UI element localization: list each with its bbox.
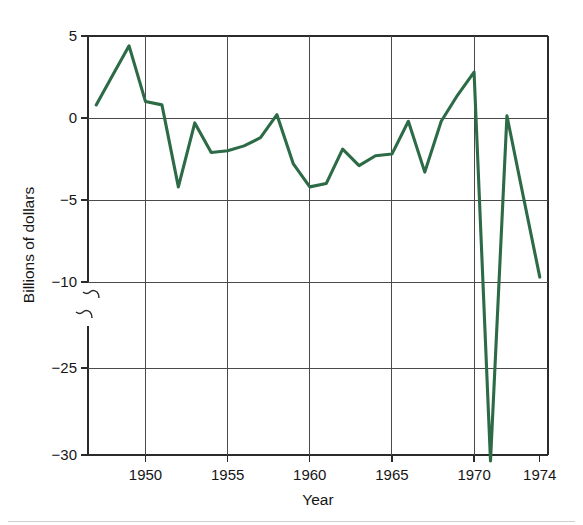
x-tick-label-1955: 1955 [211, 466, 244, 483]
x-tick-label-1950: 1950 [129, 466, 162, 483]
figure-container: 50−5−10−25−30 195019551960196519701974 B… [0, 0, 583, 525]
x-tick-label-1974: 1974 [523, 466, 556, 483]
y-axis-title: Billions of dollars [20, 187, 37, 304]
y-tick-label-neg10: −10 [52, 273, 77, 290]
x-tick-label-1960: 1960 [293, 466, 326, 483]
x-tick-label-1965: 1965 [375, 466, 408, 483]
x-axis-title: Year [302, 491, 333, 508]
y-tick-label-5: 5 [69, 27, 77, 44]
y-tick-label-neg30: −30 [52, 446, 77, 463]
y-tick-label-neg25: −25 [52, 359, 77, 376]
y-tick-label-0: 0 [69, 109, 77, 126]
line-chart: 50−5−10−25−30 195019551960196519701974 B… [0, 0, 583, 525]
x-tick-label-1970: 1970 [457, 466, 490, 483]
y-tick-label-neg5: −5 [60, 191, 77, 208]
